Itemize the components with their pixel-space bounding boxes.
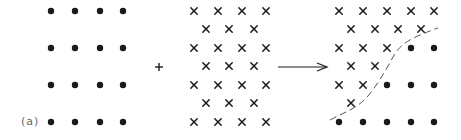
dot-marker bbox=[408, 119, 414, 125]
dot-marker bbox=[72, 8, 78, 14]
dot-marker bbox=[336, 119, 342, 125]
cross-marker bbox=[226, 63, 232, 69]
cross-marker bbox=[203, 63, 209, 69]
dot-marker bbox=[48, 119, 54, 125]
cross-marker bbox=[226, 26, 232, 32]
figure-label: (a) bbox=[21, 115, 39, 128]
cross-marker bbox=[215, 45, 221, 51]
cross-marker bbox=[215, 82, 221, 88]
cross-marker bbox=[191, 45, 197, 51]
cross-marker bbox=[372, 63, 378, 69]
dot-marker bbox=[97, 45, 103, 51]
cross-marker bbox=[263, 8, 269, 14]
cross-marker bbox=[336, 8, 342, 14]
dot-marker bbox=[72, 119, 78, 125]
cross-marker bbox=[191, 82, 197, 88]
dot-marker bbox=[408, 82, 414, 88]
dot-marker bbox=[97, 8, 103, 14]
cross-marker bbox=[360, 45, 366, 51]
dot-marker bbox=[431, 82, 437, 88]
dot-marker bbox=[360, 119, 366, 125]
cross-marker bbox=[239, 82, 245, 88]
cross-marker bbox=[395, 26, 401, 32]
dot-marker bbox=[431, 45, 437, 51]
cross-marker bbox=[372, 26, 378, 32]
dot-marker bbox=[120, 82, 126, 88]
dot-marker bbox=[48, 82, 54, 88]
cross-marker bbox=[263, 119, 269, 125]
dot-marker bbox=[72, 45, 78, 51]
cross-marker bbox=[215, 8, 221, 14]
dot-marker bbox=[431, 119, 437, 125]
cross-marker bbox=[191, 8, 197, 14]
dot-marker bbox=[120, 45, 126, 51]
cross-marker bbox=[263, 45, 269, 51]
diagram-canvas bbox=[0, 0, 461, 140]
cross-marker bbox=[336, 45, 342, 51]
lattice-diagram: (a) bbox=[0, 0, 461, 140]
cross-marker bbox=[348, 100, 354, 106]
dot-marker bbox=[97, 119, 103, 125]
cross-marker bbox=[251, 26, 257, 32]
cross-marker bbox=[418, 26, 424, 32]
cross-marker bbox=[348, 26, 354, 32]
right-arrow-icon bbox=[278, 63, 327, 71]
cross-marker bbox=[191, 119, 197, 125]
cross-marker bbox=[384, 8, 390, 14]
cross-marker bbox=[408, 8, 414, 14]
dot-marker bbox=[384, 119, 390, 125]
cross-marker bbox=[215, 119, 221, 125]
dot-marker bbox=[97, 82, 103, 88]
dot-marker bbox=[120, 8, 126, 14]
cross-marker bbox=[384, 45, 390, 51]
cross-marker bbox=[251, 100, 257, 106]
dot-marker bbox=[120, 119, 126, 125]
cross-marker bbox=[239, 45, 245, 51]
cross-marker bbox=[203, 100, 209, 106]
cross-marker bbox=[239, 119, 245, 125]
dashed-boundary-curve bbox=[330, 28, 438, 120]
cross-marker bbox=[226, 100, 232, 106]
cross-lattice-panel bbox=[191, 8, 269, 125]
dot-marker bbox=[48, 45, 54, 51]
cross-marker bbox=[263, 82, 269, 88]
dot-marker bbox=[72, 82, 78, 88]
cross-marker bbox=[360, 82, 366, 88]
dot-marker bbox=[408, 45, 414, 51]
cross-marker bbox=[431, 8, 437, 14]
cross-marker bbox=[251, 63, 257, 69]
dot-lattice-panel bbox=[48, 8, 126, 125]
dot-marker bbox=[48, 8, 54, 14]
combined-lattice-panel bbox=[330, 8, 438, 125]
cross-marker bbox=[239, 8, 245, 14]
cross-marker bbox=[360, 8, 366, 14]
dot-marker bbox=[384, 82, 390, 88]
plus-operator-icon bbox=[155, 63, 163, 71]
cross-marker bbox=[336, 82, 342, 88]
cross-marker bbox=[203, 26, 209, 32]
cross-marker bbox=[348, 63, 354, 69]
